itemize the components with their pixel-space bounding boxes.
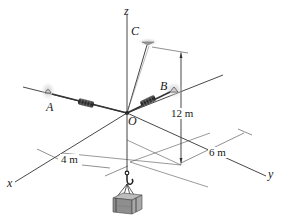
z-axis-label: z — [124, 5, 129, 17]
dimension-12m-label: 12 m — [170, 108, 194, 119]
y-axis — [127, 113, 266, 176]
support-b — [165, 82, 183, 98]
point-c-label: C — [131, 25, 139, 37]
support-c — [138, 38, 158, 46]
dimension-12m — [152, 47, 188, 163]
statics-diagram: z x y C A B O 12 m 4 m 6 m — [0, 0, 281, 219]
crate-load — [113, 193, 142, 214]
support-a — [41, 82, 55, 100]
spring-oa — [52, 94, 127, 113]
dimension-4m — [37, 149, 128, 176]
dimension-6m-label: 6 m — [208, 147, 227, 158]
x-axis — [15, 113, 127, 182]
spring-ob — [127, 92, 170, 113]
point-o-label: O — [128, 115, 137, 127]
x-axis-label: x — [7, 177, 12, 189]
y-axis-label: y — [268, 168, 273, 180]
point-a-label: A — [46, 101, 53, 113]
dimension-4m-label: 4 m — [60, 154, 79, 165]
hook-icon — [125, 171, 133, 184]
point-b-label: B — [160, 80, 167, 92]
